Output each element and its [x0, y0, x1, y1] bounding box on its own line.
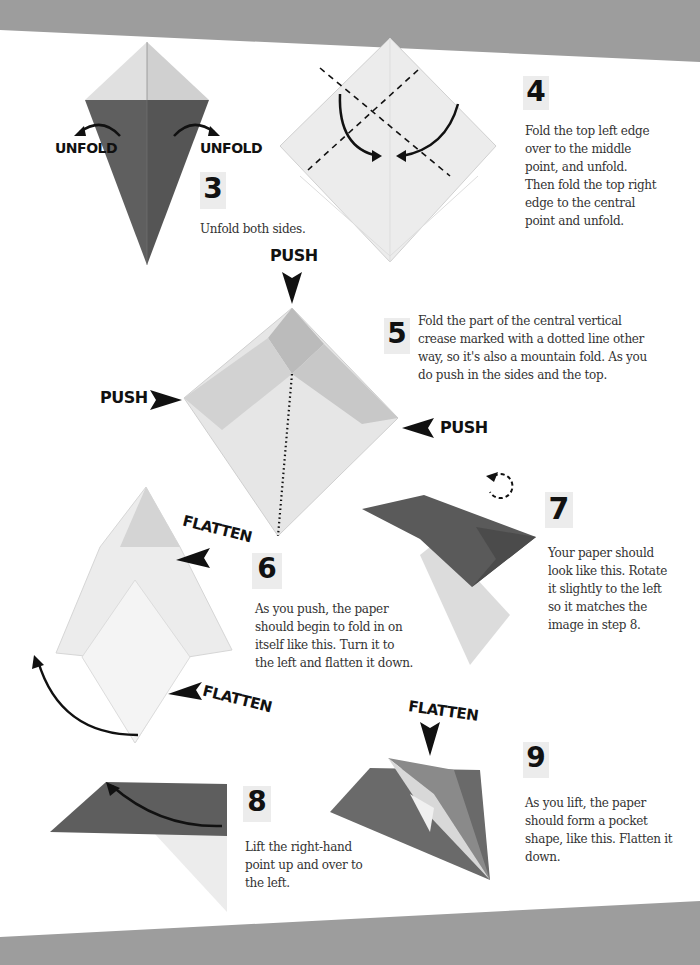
step9-pocket-illustration: [330, 750, 520, 890]
push-label-left: PUSH: [100, 388, 148, 407]
step9-line: shape, like this. Flatten it: [525, 830, 672, 848]
step9-line: As you lift, the paper: [525, 794, 672, 812]
step-number-6: 6: [252, 553, 282, 589]
step4-line: point and unfold.: [525, 212, 656, 230]
step4-text: Fold the top left edge over to the middl…: [525, 122, 656, 230]
flatten-label-step9: FLATTEN: [407, 697, 479, 725]
step5-text: Fold the part of the central vertical cr…: [418, 312, 647, 384]
step9-line: down.: [525, 848, 672, 866]
step7-line: it slightly to the left: [548, 580, 667, 598]
step7-line: Your paper should: [548, 544, 667, 562]
step5-line: crease marked with a dotted line other: [418, 330, 647, 348]
flatten-arrow-upper-icon: [176, 548, 210, 568]
step-number-3: 3: [200, 172, 226, 209]
step9-line: should form a pocket: [525, 812, 672, 830]
flatten-arrow-lower-icon: [168, 682, 202, 700]
push-label-right: PUSH: [440, 418, 488, 437]
step5-line: do push in the sides and the top.: [418, 366, 647, 384]
push-label-top: PUSH: [270, 246, 318, 265]
unfold-arrow-left-icon: [72, 108, 132, 138]
push-arrow-down-icon: [282, 272, 302, 304]
step-number-9: 9: [523, 742, 549, 778]
step-number-5: 5: [384, 318, 410, 354]
step-number-8: 8: [243, 786, 271, 822]
step-number-7: 7: [545, 492, 573, 528]
step7-line: image in step 8.: [548, 616, 667, 634]
step4-line: Fold the top left edge: [525, 122, 656, 140]
push-arrow-right-icon: [150, 390, 182, 410]
unfold-arrow-right-icon: [170, 108, 230, 138]
step4-line: edge to the central: [525, 194, 656, 212]
push-arrow-left-icon: [402, 418, 434, 438]
step4-line: Then fold the top right: [525, 176, 656, 194]
rotate-arrow-icon: [30, 655, 140, 740]
step4-square-illustration: [278, 36, 498, 266]
step8-folded-illustration: [50, 780, 230, 915]
unfold-label-right: UNFOLD: [200, 140, 262, 156]
step-number-4: 4: [523, 76, 549, 110]
step9-text: As you lift, the paper should form a poc…: [525, 794, 672, 866]
step5-line: way, so it's also a mountain fold. As yo…: [418, 348, 647, 366]
unfold-label-left: UNFOLD: [55, 140, 117, 156]
step7-line: so it matches the: [548, 598, 667, 616]
flatten-arrow-down-icon: [420, 722, 440, 756]
step4-line: point, and unfold.: [525, 158, 656, 176]
rotate-dashed-arrow-icon: [486, 472, 516, 506]
step7-line: look like this. Rotate: [548, 562, 667, 580]
step4-line: over to the middle: [525, 140, 656, 158]
step7-folded-illustration: [360, 495, 560, 675]
step5-line: Fold the part of the central vertical: [418, 312, 647, 330]
step7-text: Your paper should look like this. Rotate…: [548, 544, 667, 634]
